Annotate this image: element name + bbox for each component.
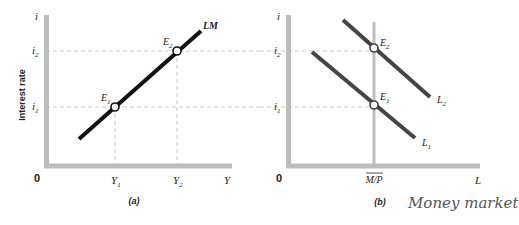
handwritten-annotation: Money market	[407, 194, 519, 212]
origin-label: 0	[34, 172, 40, 184]
tick-y2: Y2	[173, 174, 183, 189]
equilibrium-point-e1-b	[370, 101, 378, 109]
origin-label-b: 0	[276, 172, 282, 184]
money-supply-label: M/P	[364, 174, 382, 185]
y-axis-symbol-b: i	[277, 10, 280, 22]
tick-i1-b: i1	[274, 100, 281, 115]
point-label-e1: E1	[100, 92, 111, 106]
x-axis-symbol-b: L	[474, 174, 481, 186]
money-demand-curve-l1	[312, 52, 415, 138]
equilibrium-point-e2-b	[370, 44, 378, 52]
panel-b-caption: (b)	[374, 197, 386, 207]
tick-i2-b: i2	[274, 44, 281, 59]
y-axis-title: Interest rate	[17, 69, 27, 121]
panel-a-caption: (a)	[129, 196, 140, 206]
point-label-e2: E2	[162, 36, 173, 50]
tick-i2: i2	[32, 44, 39, 59]
tick-i1: i1	[32, 100, 39, 115]
point-label-e1-b: E1	[379, 91, 390, 105]
lm-curve	[79, 31, 201, 139]
panel-a: i i2 i1 Interest rate 0 Y1 Y2 Y LM E1 E2…	[17, 10, 260, 206]
is-lm-diagram: i i2 i1 Interest rate 0 Y1 Y2 Y LM E1 E2…	[0, 0, 519, 225]
curve-label-l1: L1	[421, 137, 431, 151]
lm-curve-label: LM	[202, 20, 219, 31]
curve-label-l2: L2	[436, 94, 447, 108]
point-label-e2-b: E2	[379, 37, 390, 51]
equilibrium-point-e1	[111, 103, 119, 111]
tick-y1: Y1	[111, 174, 121, 189]
money-demand-curve-l2	[343, 20, 430, 97]
x-axis-symbol: Y	[224, 174, 232, 186]
panel-b: i i2 i1 0 M/P L E2 E1 L2 L1 (b) Money ma…	[260, 10, 519, 212]
y-axis-symbol: i	[35, 10, 38, 22]
equilibrium-point-e2	[173, 47, 181, 55]
